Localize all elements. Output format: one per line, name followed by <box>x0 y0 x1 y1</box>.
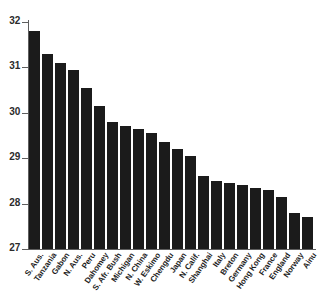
bar <box>159 142 170 249</box>
x-axis-label: Ainu <box>301 251 318 270</box>
bar <box>211 181 222 249</box>
bar <box>81 88 92 249</box>
bar <box>42 54 53 249</box>
y-axis-tick-mark <box>22 158 28 159</box>
bar <box>29 31 40 249</box>
bar <box>224 183 235 249</box>
y-axis-tick-mark <box>22 113 28 114</box>
y-axis-tick-mark <box>22 22 28 23</box>
bar <box>198 176 209 249</box>
bar <box>120 126 131 249</box>
bar <box>263 190 274 249</box>
bar <box>289 213 300 249</box>
y-axis-tick-mark <box>22 204 28 205</box>
bar <box>133 129 144 249</box>
y-axis-tick-label: 27 <box>0 242 20 253</box>
y-axis-tick-mark <box>22 67 28 68</box>
bar-chart: 272829303132 S. Aus.TanzaniaGabonN. Aus.… <box>0 0 318 306</box>
y-axis-tick-label: 29 <box>0 151 20 162</box>
bar <box>94 106 105 249</box>
y-axis-tick-label: 32 <box>0 15 20 26</box>
y-axis-tick-label: 31 <box>0 60 20 71</box>
x-axis-labels: S. Aus.TanzaniaGabonN. Aus.PeruDahomeyS.… <box>29 251 315 306</box>
bar <box>172 149 183 249</box>
bar <box>250 188 261 249</box>
bar <box>68 70 79 249</box>
x-axis-line <box>28 249 316 250</box>
y-axis-tick-label: 28 <box>0 197 20 208</box>
bar <box>146 133 157 249</box>
bar <box>107 122 118 249</box>
bars-container <box>29 22 315 249</box>
y-axis-tick-label: 30 <box>0 106 20 117</box>
bar <box>276 197 287 249</box>
bar <box>237 185 248 249</box>
x-axis-label-text: Ainu <box>301 251 318 270</box>
bar <box>55 63 66 249</box>
bar <box>302 217 313 249</box>
bar <box>185 156 196 249</box>
y-axis-tick-mark <box>22 249 28 250</box>
